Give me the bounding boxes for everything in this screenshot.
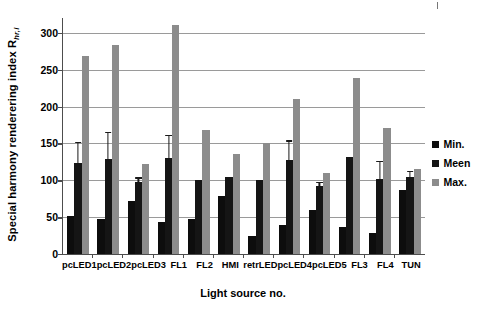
bar-min	[97, 219, 104, 254]
legend-item: Meen	[432, 154, 494, 173]
bar-group	[184, 18, 214, 254]
y-axis-title-subscript: hr,i	[12, 28, 21, 40]
x-tick-label: pcLED2	[97, 258, 132, 274]
x-tick-label: FL1	[166, 258, 192, 274]
bar-min	[369, 233, 376, 254]
bar-group	[63, 18, 93, 254]
bar-mean	[406, 177, 413, 254]
bar-min	[158, 222, 165, 254]
bars	[154, 18, 184, 254]
bar-mean	[286, 160, 293, 254]
error-bar-cap	[407, 171, 414, 172]
error-bar-cap	[286, 140, 293, 141]
bars	[214, 18, 244, 254]
bar-min	[339, 227, 346, 254]
y-axis-ticks: 050100150200250300	[22, 18, 58, 254]
bar-max	[353, 78, 360, 254]
bar-mean	[135, 182, 142, 254]
error-bar	[77, 142, 78, 163]
error-bar	[409, 171, 410, 178]
error-bar-cap	[377, 161, 384, 162]
legend-label: Meen	[444, 158, 471, 169]
bars	[365, 18, 395, 254]
chart-container: Special harmony renderering index Rhr,i …	[0, 0, 497, 312]
bar-min	[67, 216, 74, 254]
x-axis-labels: pcLED1pcLED2pcLED3FL1FL2HMIretrLEDpcLED4…	[62, 258, 424, 274]
bar-mean	[346, 157, 353, 254]
legend-item: Max.	[432, 173, 494, 192]
error-bar-cap	[75, 142, 82, 143]
bar-min	[128, 201, 135, 254]
bar-group	[214, 18, 244, 254]
bar-mean	[256, 180, 263, 254]
plot-area	[62, 18, 425, 255]
bar-max	[293, 99, 300, 254]
bars	[123, 18, 153, 254]
error-bar-cap	[135, 177, 142, 178]
bar-max	[323, 173, 330, 254]
bars	[93, 18, 123, 254]
legend-swatch	[432, 160, 439, 167]
error-bar	[108, 132, 109, 159]
x-tick-label: TUN	[398, 258, 424, 274]
error-bar-cap	[316, 182, 323, 183]
y-tick-label: 300	[28, 28, 58, 39]
bar-mean	[225, 177, 232, 254]
error-bar	[379, 161, 380, 179]
bar-max	[263, 143, 270, 254]
x-tick-label: FL4	[372, 258, 398, 274]
bar-mean	[165, 158, 172, 254]
x-axis-title: Light source no.	[62, 287, 424, 299]
x-tick-label: retrLED	[243, 258, 277, 274]
error-bar-cap	[165, 135, 172, 136]
y-tick-label: 200	[28, 101, 58, 112]
bar-max	[82, 56, 89, 254]
bar-mean	[316, 186, 323, 254]
bar-mean	[74, 163, 81, 254]
bars	[274, 18, 304, 254]
bar-max	[202, 130, 209, 254]
bar-group	[395, 18, 425, 254]
bars	[63, 18, 93, 254]
bar-mean	[376, 179, 383, 254]
y-tick-label: 100	[28, 175, 58, 186]
x-tick-label: pcLED4	[277, 258, 312, 274]
y-axis-title-text: Special harmony renderering index R	[5, 40, 17, 242]
error-bar	[138, 177, 139, 182]
bars	[335, 18, 365, 254]
y-tick-label: 0	[28, 249, 58, 260]
bar-group	[274, 18, 304, 254]
x-tick-label: pcLED3	[131, 258, 166, 274]
bar-group	[365, 18, 395, 254]
bar-group	[93, 18, 123, 254]
bars	[244, 18, 274, 254]
bar-mean	[195, 180, 202, 254]
bar-min	[279, 225, 286, 254]
bar-max	[233, 154, 240, 254]
legend: Min.MeenMax.	[432, 135, 494, 192]
x-tick-label: FL2	[192, 258, 218, 274]
error-bar	[319, 182, 320, 186]
legend-label: Min.	[444, 139, 465, 150]
bar-group	[335, 18, 365, 254]
scan-artifact	[437, 2, 438, 9]
x-tick-label: HMI	[217, 258, 243, 274]
bars	[395, 18, 425, 254]
bar-group	[123, 18, 153, 254]
bar-min	[248, 236, 255, 254]
bar-min	[188, 219, 195, 254]
x-tick-label: pcLED1	[62, 258, 97, 274]
x-tick-label: pcLED5	[312, 258, 347, 274]
bar-group	[304, 18, 334, 254]
bar-max	[414, 169, 421, 254]
bar-max	[112, 45, 119, 254]
legend-label: Max.	[444, 177, 467, 188]
y-tick-label: 250	[28, 64, 58, 75]
x-tick-label: FL3	[347, 258, 373, 274]
bar-min	[218, 196, 225, 254]
bar-min	[399, 190, 406, 254]
y-tick-label: 50	[28, 212, 58, 223]
legend-swatch	[432, 141, 439, 148]
bar-min	[309, 210, 316, 254]
error-bar	[289, 140, 290, 160]
